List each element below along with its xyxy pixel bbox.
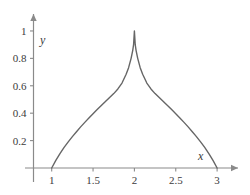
y-tick-label: 0.2 — [13, 135, 27, 146]
plot-canvas — [0, 0, 250, 195]
x-axis-arrow-icon — [231, 165, 238, 171]
y-axis-arrow-icon — [30, 14, 36, 21]
data-curve — [52, 31, 217, 168]
y-tick-label: 1 — [21, 25, 27, 36]
x-tick-label: 2.5 — [169, 175, 183, 186]
axis-group — [25, 14, 238, 182]
x-tick-label: 1.5 — [86, 175, 100, 186]
chart-figure: 0.20.40.60.81 11.522.53 y x — [0, 0, 250, 195]
y-tick-label: 0.6 — [13, 80, 27, 91]
x-tick-label: 3 — [214, 175, 220, 186]
y-tick-label: 0.4 — [13, 108, 27, 119]
y-tick-label: 0.8 — [13, 53, 27, 64]
x-tick-label: 1 — [49, 175, 55, 186]
x-tick-label: 2 — [132, 175, 138, 186]
y-axis-label: y — [40, 34, 45, 46]
x-axis-label: x — [198, 150, 203, 162]
